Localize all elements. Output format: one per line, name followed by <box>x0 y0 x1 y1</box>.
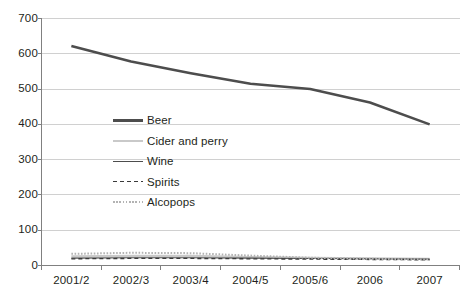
legend-swatch-icon <box>113 155 143 167</box>
legend-label: Spirits <box>147 176 180 188</box>
legend-item-wine: Wine <box>113 151 263 172</box>
chart-legend: BeerCider and perryWineSpiritsAlcopops <box>113 110 263 213</box>
legend-swatch-icon <box>113 114 143 126</box>
y-tick-label: 200 <box>2 189 38 201</box>
y-tick-label: 300 <box>2 154 38 166</box>
y-tick-label: 0 <box>2 260 38 272</box>
legend-label: Beer <box>147 114 172 126</box>
legend-swatch-icon <box>113 135 143 147</box>
x-tick-label: 2006 <box>340 274 400 286</box>
y-axis-tick-labels: 0100200300400500600700 <box>0 0 38 298</box>
legend-label: Alcopops <box>147 196 195 208</box>
y-tick-label: 700 <box>2 13 38 25</box>
legend-item-beer: Beer <box>113 110 263 131</box>
legend-swatch-icon <box>113 196 143 208</box>
x-tick-label: 2004/5 <box>221 274 281 286</box>
legend-item-spirits: Spirits <box>113 172 263 193</box>
y-axis-ticks <box>38 19 42 266</box>
legend-swatch-icon <box>113 176 143 188</box>
legend-item-alcopops: Alcopops <box>113 192 263 213</box>
x-tick-label: 2007 <box>400 274 460 286</box>
legend-label: Cider and perry <box>147 135 228 147</box>
y-tick-label: 600 <box>2 48 38 60</box>
y-tick-label: 500 <box>2 83 38 95</box>
x-tick-label: 2003/4 <box>161 274 221 286</box>
y-tick-label: 100 <box>2 224 38 236</box>
x-tick-label: 2005/6 <box>280 274 340 286</box>
line-chart: 0100200300400500600700 2001/22002/32003/… <box>0 0 475 298</box>
x-tick-label: 2001/2 <box>42 274 102 286</box>
y-tick-label: 400 <box>2 118 38 130</box>
x-axis-ticks <box>42 266 460 271</box>
x-tick-label: 2002/3 <box>101 274 161 286</box>
legend-item-cider-and-perry: Cider and perry <box>113 131 263 152</box>
legend-label: Wine <box>147 155 174 167</box>
